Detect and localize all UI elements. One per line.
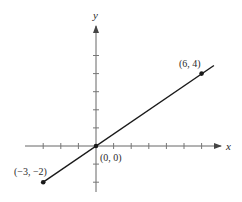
data-line	[43, 65, 214, 182]
data-point	[199, 71, 204, 76]
data-point	[41, 180, 46, 185]
chart-svg: x y (−3, −2) (0, 0) (6, 4)	[0, 0, 242, 202]
point-label-origin: (0, 0)	[100, 152, 122, 164]
x-axis-label: x	[225, 140, 231, 152]
point-label-6-4: (6, 4)	[179, 58, 201, 70]
y-axis-label: y	[92, 9, 98, 21]
point-label-neg3-neg2: (−3, −2)	[14, 166, 47, 178]
coordinate-plane-figure: x y (−3, −2) (0, 0) (6, 4)	[0, 0, 242, 202]
data-point	[94, 144, 99, 149]
